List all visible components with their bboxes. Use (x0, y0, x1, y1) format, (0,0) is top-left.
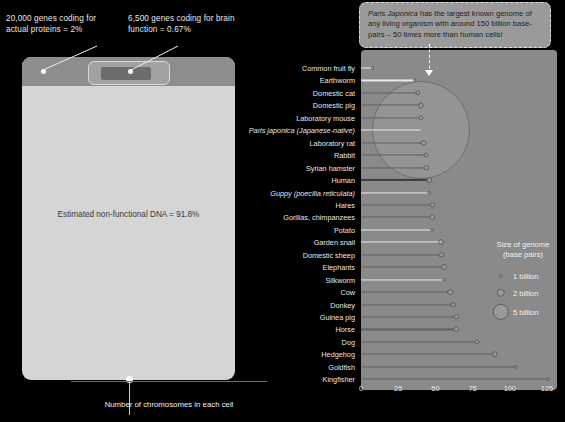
row-label: Hedgehog (321, 350, 355, 359)
row-label: Silkworm (325, 275, 355, 284)
row-stem (361, 242, 441, 243)
data-bubble (428, 191, 432, 195)
row-label: Earthworm (320, 76, 355, 85)
data-bubble (450, 302, 456, 308)
legend-title-line1: Size of genome (487, 240, 559, 250)
row-stem (361, 142, 423, 143)
data-bubble (447, 289, 453, 295)
genome-bar: Estimated non-functional DNA = 91.8% (22, 57, 235, 380)
non-functional-dna-label: Estimated non-functional DNA = 91.8% (22, 209, 235, 220)
callout-arrow-icon (425, 70, 433, 76)
row-label: Paris japonica (Japanese-native) (249, 126, 355, 135)
data-bubble (492, 352, 498, 358)
note-protein-coding-genes: 20,000 genes coding for actual proteins … (6, 14, 116, 35)
row-stem (361, 304, 453, 305)
x-tick-label: 100 (504, 384, 516, 393)
genome-composition-panel: 20,000 genes coding for actual proteins … (0, 0, 290, 422)
bottom-leader-line (129, 383, 130, 415)
data-bubble (430, 215, 436, 221)
row-stem (361, 179, 429, 181)
x-tick-label: 50 (431, 384, 439, 393)
legend-label: 1 billion (513, 272, 538, 281)
legend-item: 1 billion (487, 268, 565, 284)
row-label: Rabbit (334, 151, 355, 160)
row-label: Domestic cat (313, 88, 355, 97)
row-stem (361, 341, 477, 342)
row-label: Laboratory rat (310, 138, 355, 147)
legend-bubble (493, 304, 509, 320)
row-stem (361, 105, 421, 106)
x-tick-label: 125 (541, 384, 553, 393)
callout-species: Paris Japonica (368, 9, 418, 18)
note-brain-function-genes: 6,500 genes coding for brain function = … (128, 14, 240, 35)
data-bubble (443, 278, 447, 282)
data-bubble (413, 79, 417, 83)
legend-label: 5 billion (513, 308, 538, 317)
row-stem (361, 379, 548, 380)
protein-marker-dot (41, 69, 46, 74)
x-tick-label: 0 (359, 384, 363, 393)
row-label: Cow (340, 288, 355, 297)
row-stem (361, 279, 444, 280)
row-label: Syrian hamster (306, 163, 355, 172)
data-bubble (371, 66, 375, 70)
row-label: Common fruit fly (302, 64, 355, 73)
x-tick-label: 75 (468, 384, 476, 393)
paris-japonica-callout: Paris Japonica has the largest known gen… (359, 2, 551, 48)
row-stem (361, 80, 415, 81)
data-bubble (431, 228, 435, 232)
brain-marker-dot (128, 69, 133, 74)
legend-bubble (497, 289, 505, 297)
row-stem (361, 354, 495, 355)
row-label: Elephants (323, 263, 355, 272)
row-label: Dog (342, 337, 355, 346)
row-stem (361, 117, 421, 118)
row-stem (361, 167, 426, 168)
row-stem (361, 366, 516, 367)
row-label: Human (331, 176, 355, 185)
row-stem (361, 292, 450, 293)
legend-title: Size of genome (base pairs) (487, 240, 559, 260)
data-bubble (427, 177, 433, 183)
row-label: Donkey (330, 300, 355, 309)
data-bubble (438, 239, 444, 245)
row-stem (361, 217, 432, 218)
row-stem (361, 316, 456, 317)
row-stem (361, 254, 441, 255)
row-stem (361, 130, 421, 131)
row-label: Hares (336, 200, 355, 209)
genome-size-legend: Size of genome (base pairs) 1 billion2 b… (487, 240, 565, 260)
row-label: Domestic pig (313, 101, 355, 110)
data-bubble (547, 377, 551, 381)
row-stem (361, 229, 432, 230)
row-stem (361, 155, 426, 156)
row-label: Potato (334, 225, 355, 234)
legend-title-line2: (base pairs) (487, 250, 559, 260)
brain-function-region (101, 67, 151, 80)
row-stem (361, 329, 456, 330)
legend-item: 2 billion (487, 285, 565, 301)
row-label: Kingfisher (323, 375, 355, 384)
x-axis-title: Number of chromosomes in each cell (71, 400, 267, 409)
row-stem (361, 192, 429, 193)
infographic-page: 20,000 genes coding for actual proteins … (0, 0, 565, 422)
data-bubble (424, 153, 429, 158)
row-label: Laboratory mouse (296, 113, 355, 122)
row-label: Domestic sheep (303, 250, 355, 259)
legend-label: 2 billion (513, 289, 538, 298)
x-tick-label: 25 (394, 384, 402, 393)
row-label: Goldfish (328, 362, 355, 371)
row-label: Horse (336, 325, 355, 334)
data-bubble (453, 327, 459, 333)
legend-item: 5 billion (487, 304, 565, 320)
row-label: Guinea pig (320, 313, 355, 322)
row-label: Garden snail (314, 238, 355, 247)
row-stem (361, 267, 444, 268)
row-label: Guppy (poecilia reticulata) (270, 188, 355, 197)
row-stem (361, 92, 418, 93)
x-axis-line (71, 381, 267, 382)
legend-bubble (499, 274, 503, 278)
row-label: Gorillas, chimpanzees (283, 213, 355, 222)
row-stem (361, 204, 432, 205)
